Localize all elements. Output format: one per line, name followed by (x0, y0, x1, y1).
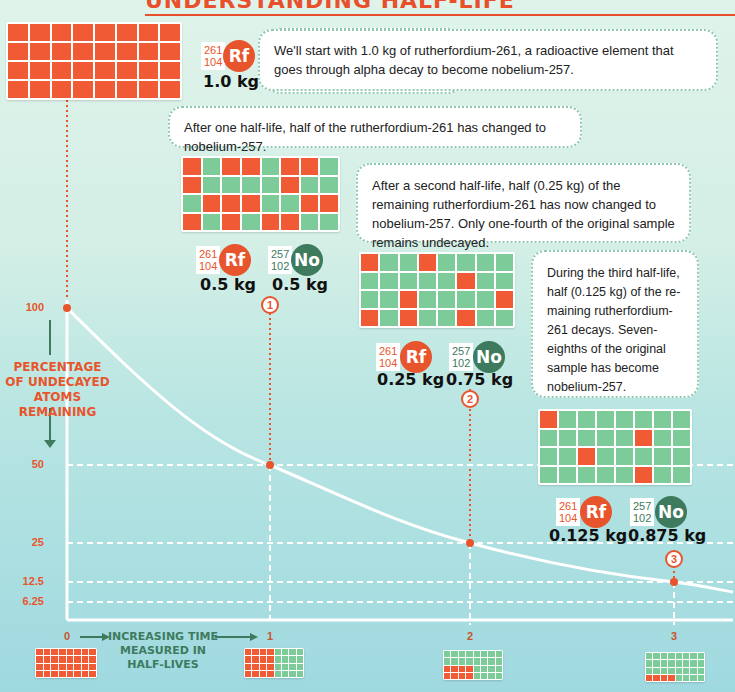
decayed-atom-cell (653, 668, 659, 674)
decayed-atom-cell (466, 658, 472, 664)
decayed-atom-cell (481, 673, 487, 679)
decayed-atom-cell (496, 651, 502, 657)
decayed-atom-cell (459, 658, 465, 664)
half-life-marker-2: 2 (461, 390, 479, 408)
decayed-atom-cell (297, 649, 303, 655)
rf-mass: 0.5 kg (200, 275, 256, 294)
decayed-atom-cell (654, 448, 671, 465)
decayed-atom-cell (646, 653, 652, 659)
decayed-atom-cell (540, 448, 557, 465)
undecayed-atom-cell (252, 671, 258, 677)
decayed-atom-cell (481, 651, 487, 657)
decayed-atom-cell (275, 664, 281, 670)
decayed-atom-cell (262, 158, 280, 175)
undecayed-atom-cell (242, 195, 260, 212)
decayed-atom-cell (496, 658, 502, 664)
decayed-atom-cell (559, 467, 576, 484)
undecayed-atom-cell (267, 664, 273, 670)
decayed-atom-cell (496, 254, 513, 271)
decayed-atom-cell (496, 666, 502, 672)
rf-isotope-numbers: 261104 (196, 246, 220, 274)
undecayed-atom-cell (44, 649, 51, 655)
decayed-atom-cell (438, 273, 455, 290)
intro-text-bubble: We'll start with 1.0 kg of rutherfordium… (258, 29, 718, 91)
undecayed-atom-cell (400, 310, 417, 327)
decayed-atom-cell (242, 214, 260, 231)
decayed-atom-cell (690, 660, 696, 666)
decayed-atom-cell (673, 467, 690, 484)
decayed-atom-cell (488, 673, 494, 679)
decayed-atom-cell (301, 214, 319, 231)
small-grid-1 (244, 648, 304, 678)
decayed-atom-cell (654, 411, 671, 428)
undecayed-atom-cell (82, 671, 89, 677)
decayed-atom-cell (635, 448, 652, 465)
decayed-atom-cell (683, 668, 689, 674)
grid-stage-3 (538, 409, 692, 485)
decayed-atom-cell (289, 671, 295, 677)
decayed-atom-cell (698, 675, 704, 681)
undecayed-atom-cell (451, 666, 457, 672)
grid-stage-1 (181, 156, 340, 232)
undecayed-atom-cell (260, 649, 266, 655)
undecayed-atom-cell (30, 24, 50, 41)
undecayed-atom-cell (82, 664, 89, 670)
decayed-atom-cell (281, 195, 299, 212)
decayed-atom-cell (559, 430, 576, 447)
undecayed-atom-cell (74, 649, 81, 655)
undecayed-atom-cell (74, 664, 81, 670)
decayed-atom-cell (496, 273, 513, 290)
decayed-atom-cell (444, 651, 450, 657)
undecayed-atom-cell (73, 62, 93, 79)
undecayed-atom-cell (8, 43, 28, 60)
undecayed-atom-cell (139, 62, 159, 79)
decayed-atom-cell (578, 467, 595, 484)
rf-mass: 0.125 kg (549, 526, 627, 545)
decayed-atom-cell (282, 671, 288, 677)
undecayed-atom-cell (8, 62, 28, 79)
undecayed-atom-cell (52, 62, 72, 79)
decayed-atom-cell (297, 671, 303, 677)
decayed-atom-cell (616, 448, 633, 465)
undecayed-atom-cell (457, 273, 474, 290)
grid-stage-0 (6, 22, 182, 100)
decayed-atom-cell (380, 273, 397, 290)
undecayed-atom-cell (459, 666, 465, 672)
undecayed-atom-cell (36, 649, 43, 655)
undecayed-atom-cell (245, 671, 251, 677)
no-element-badge: No (655, 496, 687, 528)
undecayed-atom-cell (89, 649, 96, 655)
half-life-marker-1: 1 (261, 296, 279, 314)
decayed-atom-cell (477, 310, 494, 327)
undecayed-atom-cell (73, 81, 93, 98)
rf-element-badge: Rf (580, 496, 612, 528)
undecayed-atom-cell (95, 62, 115, 79)
undecayed-atom-cell (139, 81, 159, 98)
no-mass: 0.5 kg (272, 275, 328, 294)
decayed-atom-cell (438, 310, 455, 327)
decayed-atom-cell (275, 656, 281, 662)
undecayed-atom-cell (466, 666, 472, 672)
undecayed-atom-cell (203, 195, 221, 212)
decayed-atom-cell (466, 651, 472, 657)
undecayed-atom-cell (139, 24, 159, 41)
decayed-atom-cell (380, 291, 397, 308)
decayed-atom-cell (690, 675, 696, 681)
decayed-atom-cell (474, 651, 480, 657)
decayed-atom-cell (438, 254, 455, 271)
decayed-atom-cell (481, 658, 487, 664)
undecayed-atom-cell (52, 81, 72, 98)
undecayed-atom-cell (252, 664, 258, 670)
decayed-atom-cell (289, 649, 295, 655)
undecayed-atom-cell (183, 177, 201, 194)
undecayed-atom-cell (44, 664, 51, 670)
decayed-atom-cell (320, 214, 338, 231)
decayed-atom-cell (282, 656, 288, 662)
undecayed-atom-cell (653, 675, 659, 681)
undecayed-atom-cell (117, 81, 137, 98)
undecayed-atom-cell (8, 81, 28, 98)
grid-stage-2 (359, 252, 515, 328)
undecayed-atom-cell (117, 43, 137, 60)
decayed-atom-cell (203, 214, 221, 231)
no-element-badge: No (473, 341, 505, 373)
